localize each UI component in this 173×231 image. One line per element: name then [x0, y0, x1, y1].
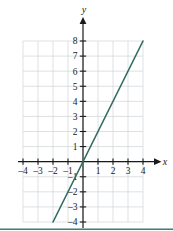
y-tick-label: 8 [73, 36, 78, 46]
x-tick-label: 3 [126, 166, 131, 176]
x-tick-label: –2 [47, 166, 58, 176]
coordinate-plane-plot: –4–3–2–11234 –4–3–2–112345678 x y [0, 0, 173, 231]
y-tick-label: 5 [73, 82, 78, 92]
y-tick-label: 6 [73, 67, 78, 77]
x-tick-label: 4 [141, 166, 146, 176]
y-tick-label: 2 [73, 127, 78, 137]
y-axis-label: y [81, 4, 87, 15]
y-tick-label: –3 [67, 202, 78, 212]
x-tick-label: 2 [111, 166, 116, 176]
graph-figure: –4–3–2–11234 –4–3–2–112345678 x y [0, 0, 173, 231]
y-tick-label: 3 [73, 112, 78, 122]
x-axis-arrowhead [154, 158, 162, 165]
x-axis-label: x [162, 156, 168, 167]
y-tick-label: 4 [73, 97, 78, 107]
y-tick-label: 1 [73, 142, 78, 152]
x-tick-label: –3 [32, 166, 43, 176]
y-axis-arrowhead [80, 17, 87, 24]
y-axis-tick-labels: –4–3–2–112345678 [67, 36, 78, 227]
x-tick-label: –4 [17, 166, 28, 176]
y-tick-label: –4 [67, 217, 78, 227]
x-tick-label: 1 [96, 166, 101, 176]
x-axis-tick-labels: –4–3–2–11234 [17, 166, 145, 176]
y-tick-label: 7 [73, 51, 78, 61]
